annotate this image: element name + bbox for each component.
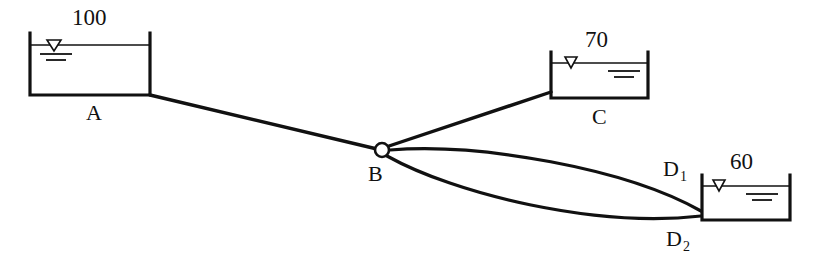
pipe-label-d1: D1	[663, 158, 686, 180]
reservoir-d	[702, 175, 790, 220]
pipe-label-d2-text: D	[666, 226, 682, 251]
reservoir-label-a: A	[86, 102, 102, 124]
reservoir-c	[551, 52, 648, 98]
reservoir-a	[30, 33, 150, 95]
reservoir-label-c: C	[592, 106, 607, 128]
pipe-label-d1-text: D	[663, 156, 679, 181]
head-label-c: 70	[585, 28, 608, 51]
pipe-label-d1-subscript: 1	[680, 169, 687, 184]
junction-label-b: B	[368, 163, 383, 185]
pipe-b-to-c	[389, 92, 551, 146]
pipe-b-to-d2	[387, 156, 701, 218]
head-label-d: 60	[730, 150, 753, 173]
junction-node-b	[375, 143, 389, 157]
pipe-network-canvas	[0, 0, 820, 262]
pipe-label-d2-subscript: 2	[683, 239, 690, 254]
pipe-network-diagram: 100 A 70 C 60 B D1 D2	[0, 0, 820, 262]
pipe-label-d2: D2	[666, 228, 689, 250]
head-label-a: 100	[72, 6, 107, 29]
pipe-a-to-b	[150, 95, 377, 149]
